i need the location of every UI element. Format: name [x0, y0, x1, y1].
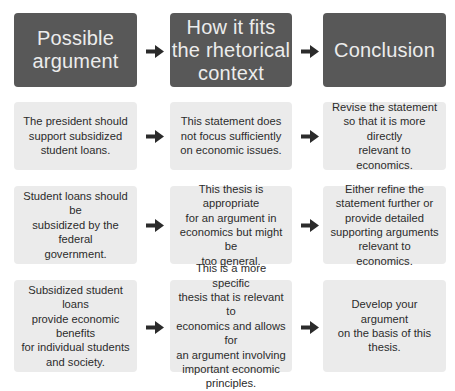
header-label: Possible argument: [32, 27, 118, 73]
arrow-right-icon: [145, 218, 165, 232]
row-3-conclusion: Develop your argument on the basis of th…: [323, 280, 446, 372]
row-2-conclusion: Either refine the statement further or p…: [323, 186, 446, 264]
cell-text: Subsidized student loans provide economi…: [20, 283, 131, 369]
cell-text: Revise the statement so that it is more …: [329, 100, 440, 172]
row-2-argument: Student loans should be subsidized by th…: [14, 186, 137, 264]
header-rhetorical-context: How it fits the rhetorical context: [170, 13, 292, 87]
cell-text: Develop your argument on the basis of th…: [329, 297, 440, 355]
row-3-context: This is a more specific thesis that is r…: [170, 280, 292, 372]
arrow-right-icon: [300, 129, 320, 143]
arrow-right-icon: [145, 129, 165, 143]
arrow-right-icon: [145, 44, 165, 58]
row-3-argument: Subsidized student loans provide economi…: [14, 280, 137, 372]
arrow-right-icon: [300, 320, 320, 334]
row-1-context: This statement does not focus sufficient…: [170, 102, 292, 170]
row-1-argument: The president should support subsidized …: [14, 102, 137, 170]
cell-text: The president should support subsidized …: [23, 114, 127, 157]
cell-text: This statement does not focus sufficient…: [180, 114, 281, 157]
cell-text: This thesis is appropriate for an argume…: [176, 182, 286, 268]
header-conclusion: Conclusion: [323, 13, 446, 87]
cell-text: Student loans should be subsidized by th…: [20, 189, 131, 261]
row-1-conclusion: Revise the statement so that it is more …: [323, 102, 446, 170]
header-possible-argument: Possible argument: [14, 13, 137, 87]
arrow-right-icon: [300, 44, 320, 58]
header-label: How it fits the rhetorical context: [172, 16, 290, 85]
header-label: Conclusion: [334, 39, 435, 62]
arrow-right-icon: [145, 320, 165, 334]
cell-text: Either refine the statement further or p…: [329, 182, 440, 268]
cell-text: This is a more specific thesis that is r…: [176, 261, 286, 391]
row-2-context: This thesis is appropriate for an argume…: [170, 186, 292, 264]
arrow-right-icon: [300, 218, 320, 232]
